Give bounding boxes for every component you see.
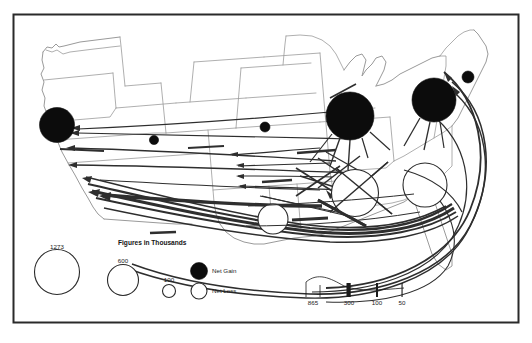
net-loss-circle-south-central	[258, 204, 288, 234]
net-gain-circle-great-lakes	[326, 92, 374, 140]
flow-line-major	[150, 232, 176, 233]
legend-flow-bar-100	[376, 283, 378, 297]
flow-line	[362, 138, 368, 158]
legend-flow-label-300: 300	[344, 299, 355, 306]
flow-line-major	[188, 146, 224, 148]
legend-circle-1273	[35, 250, 80, 295]
flow-line-major	[297, 150, 336, 153]
legend-net-gain-swatch	[191, 263, 208, 280]
legend-net-gain-label: Net Gain	[212, 267, 237, 274]
migration-flow-map-figure: 1273 600 100 Figures in Thousands Net Ga…	[0, 0, 532, 343]
net-gain-circle-texas-north	[260, 122, 270, 132]
figure-frame	[14, 15, 519, 323]
legend-circle-label-600: 600	[118, 257, 129, 264]
flow-line	[77, 133, 348, 139]
legend-circle-label-100: 100	[164, 276, 175, 283]
legend-circle-600	[108, 265, 139, 296]
legend-symbol-key: Net Gain Net Loss	[191, 263, 237, 300]
flow-line	[424, 122, 430, 150]
legend-flow-label-865: 865	[308, 299, 319, 306]
net-loss-circle-southeast	[403, 163, 447, 207]
legend-flow-bar-300	[347, 283, 351, 297]
flow-line	[78, 112, 330, 129]
legend-net-loss-swatch	[191, 283, 207, 299]
flow-arrowhead	[236, 174, 244, 179]
map-svg-canvas: 1273 600 100 Figures in Thousands Net Ga…	[0, 0, 532, 343]
flow-line-major	[292, 218, 328, 220]
legend-circle-100	[163, 285, 176, 298]
flow-line	[330, 138, 340, 166]
us-basemap-outlines	[41, 30, 488, 270]
flow-line-major	[262, 180, 292, 182]
net-gain-circle-california	[40, 108, 75, 143]
flow-line	[404, 118, 420, 146]
legend-units-label: Figures in Thousands	[118, 239, 187, 247]
flow-arrowhead	[236, 163, 244, 168]
legend-circle-label-1273: 1273	[50, 243, 64, 250]
legend-flow-label-50: 50	[399, 299, 406, 306]
legend-net-loss-label: Net Loss	[212, 287, 236, 294]
net-gain-circle-new-york	[412, 78, 456, 122]
legend-flow-bar-50	[402, 283, 403, 297]
legend-flow-label-100: 100	[372, 299, 383, 306]
legend-circle-scale: 1273 600 100	[35, 243, 176, 298]
flow-arrowhead	[82, 176, 92, 183]
flow-line	[370, 132, 390, 150]
net-gain-circle-new-england	[462, 71, 474, 83]
flow-line	[238, 176, 332, 177]
net-gain-circle-arizona	[149, 135, 158, 144]
flow-line	[238, 163, 330, 166]
